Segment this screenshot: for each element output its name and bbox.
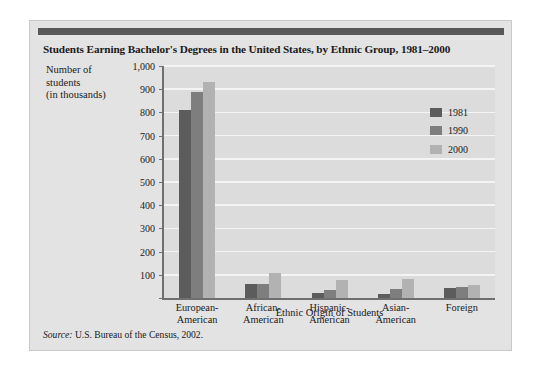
bar-group [444, 66, 480, 298]
bar-1981-european-american [179, 110, 191, 298]
bar-2000-foreign [468, 285, 480, 298]
legend-label: 2000 [448, 144, 468, 155]
bar-1981-african-american [245, 284, 257, 298]
y-tick-label: 200 [115, 246, 155, 257]
bar-1981-foreign [444, 288, 456, 298]
x-axis-title: Ethnic Origin of Students [164, 307, 495, 318]
bar-1981-hispanic-american [312, 293, 324, 298]
bar-group [312, 66, 348, 298]
y-tick-label: 500 [115, 177, 155, 188]
y-tick-label: 600 [115, 153, 155, 164]
bar-group [378, 66, 414, 298]
source-note: Source: U.S. Bureau of the Census, 2002. [43, 329, 203, 340]
y-tick-label: 700 [115, 130, 155, 141]
legend-swatch-icon [430, 126, 442, 135]
figure-top-rule [38, 28, 504, 35]
chart-legend: 198119902000 [430, 105, 468, 161]
y-tick-label: 1,000 [115, 61, 155, 72]
legend-swatch-icon [430, 108, 442, 117]
bar-2000-hispanic-american [336, 280, 348, 298]
chart-figure: Students Earning Bachelor's Degrees in t… [29, 20, 512, 351]
legend-label: 1990 [448, 125, 468, 136]
bar-1981-asian-american [378, 294, 390, 298]
legend-item-2000: 2000 [430, 142, 468, 156]
bar-1990-foreign [456, 287, 468, 298]
source-text: U.S. Bureau of the Census, 2002. [75, 329, 203, 340]
bar-group [245, 66, 281, 298]
x-axis-line [162, 298, 495, 300]
chart-title: Students Earning Bachelor's Degrees in t… [43, 43, 503, 55]
y-tick-label: 300 [115, 223, 155, 234]
bar-1990-african-american [257, 284, 269, 298]
y-tick-label: 100 [115, 269, 155, 280]
legend-item-1990: 1990 [430, 124, 468, 138]
bar-2000-european-american [203, 82, 215, 298]
legend-swatch-icon [430, 145, 442, 154]
plot-area: 1002003004005006007008009001,000 Europea… [164, 66, 495, 298]
y-tick-label: 400 [115, 200, 155, 211]
y-tick-label: 800 [115, 107, 155, 118]
legend-label: 1981 [448, 107, 468, 118]
bar-1990-asian-american [390, 289, 402, 298]
bar-1990-hispanic-american [324, 290, 336, 298]
legend-item-1981: 1981 [430, 105, 468, 119]
bar-2000-asian-american [402, 279, 414, 298]
bar-1990-european-american [191, 92, 203, 298]
y-axis-line [162, 66, 164, 298]
source-label: Source: [43, 329, 72, 340]
bar-group [179, 66, 215, 298]
bar-2000-african-american [269, 273, 281, 298]
y-tick-label: 900 [115, 84, 155, 95]
